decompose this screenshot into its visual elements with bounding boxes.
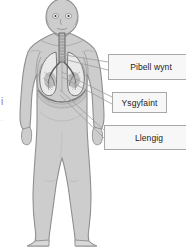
callout-label-diaphragm: Llengig xyxy=(135,133,163,143)
edge-fragment-primary: i xyxy=(1,96,3,107)
callout-label-lungs: Ysgyfaint xyxy=(122,98,158,108)
callout-box-llengig[interactable]: Llengig xyxy=(104,125,186,150)
right-pupil xyxy=(67,15,69,17)
right-foot xyxy=(75,240,97,246)
callout-box-pibell-wynt[interactable]: Pibell wynt xyxy=(108,54,186,80)
left-foot xyxy=(27,240,49,246)
human-body-figure xyxy=(0,0,186,248)
diagram-canvas: Pibell wynt Ysgyfaint Llengig i . xyxy=(0,0,186,248)
page-edge-text-fragment: i . xyxy=(1,96,13,125)
left-pupil xyxy=(54,15,56,17)
trachea xyxy=(59,33,65,62)
callout-label-trachea: Pibell wynt xyxy=(130,62,172,72)
right-hand xyxy=(92,127,102,145)
edge-fragment-secondary: . xyxy=(1,114,13,125)
left-hand xyxy=(22,127,32,145)
callout-box-ysgyfaint[interactable]: Ysgyfaint xyxy=(112,92,167,113)
